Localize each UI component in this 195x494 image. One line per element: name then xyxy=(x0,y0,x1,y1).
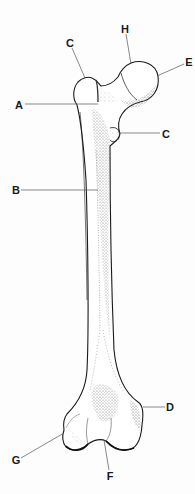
label-d: D xyxy=(166,402,174,413)
femur-diagram: C H E A C B D G F xyxy=(0,0,195,494)
label-b-shaft: B xyxy=(12,185,20,196)
label-c-greater-trochanter: C xyxy=(66,38,74,49)
label-e: E xyxy=(185,57,192,68)
label-a: A xyxy=(15,100,23,111)
leader-g xyxy=(21,433,64,458)
label-f: F xyxy=(107,471,114,482)
leader-c-top xyxy=(72,48,85,78)
leader-h xyxy=(126,34,131,64)
leader-e xyxy=(157,64,184,76)
label-h-head: H xyxy=(121,24,129,35)
label-g: G xyxy=(12,455,21,466)
femur-illustration xyxy=(0,0,195,494)
label-c-lesser-trochanter: C xyxy=(162,129,170,140)
